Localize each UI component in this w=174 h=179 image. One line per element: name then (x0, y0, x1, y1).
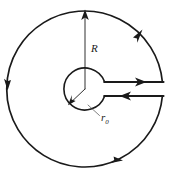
label-inner-radius: r0 (101, 111, 109, 126)
label-inner-radius-subscript: 0 (105, 118, 109, 126)
inner-radius-arrow-icon (68, 95, 76, 105)
figure-container: R r0 (0, 0, 174, 179)
loop-diagram-svg: R r0 (0, 0, 174, 179)
label-outer-radius: R (90, 42, 98, 54)
